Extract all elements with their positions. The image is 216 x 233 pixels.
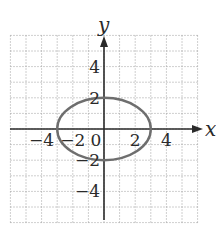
y-tick-label: 2 [89, 88, 100, 108]
y-tick-label: −2 [75, 150, 100, 170]
ellipse-graph: −4−2024 42−2−4 x y [0, 0, 216, 233]
y-axis-label: y [97, 13, 110, 37]
y-tick-label: −4 [75, 181, 100, 201]
x-tick-label: −4 [29, 130, 54, 150]
y-axis-arrow-icon [100, 36, 108, 47]
x-tick-label: 2 [130, 130, 141, 150]
x-tick-label: 0 [91, 130, 102, 150]
x-axis-label: x [205, 117, 216, 141]
x-tick-label: 4 [161, 130, 172, 150]
axes [10, 36, 203, 220]
y-tick-label: 4 [89, 57, 100, 77]
x-tick-label: −2 [60, 130, 85, 150]
